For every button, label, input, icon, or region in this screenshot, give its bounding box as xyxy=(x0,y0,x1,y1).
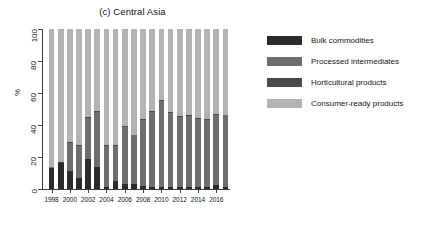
legend-label: Horticultural products xyxy=(311,78,387,87)
bar-segment xyxy=(159,29,165,100)
bar-segment xyxy=(113,146,119,181)
bar-2015 xyxy=(204,29,210,189)
x-tick-label: 2016 xyxy=(209,196,223,203)
bar-segment xyxy=(76,178,82,189)
bar-1998 xyxy=(49,29,55,189)
bar-segment xyxy=(149,112,155,186)
bar-2007 xyxy=(131,29,137,189)
legend-swatch xyxy=(267,57,302,66)
bar-segment xyxy=(49,168,55,189)
bar-2002 xyxy=(85,29,91,189)
x-tick-label: 1998 xyxy=(44,196,58,203)
bar-segment xyxy=(204,187,210,189)
bar-2003 xyxy=(94,29,100,189)
bar-segment xyxy=(76,29,82,145)
bar-2004 xyxy=(104,29,110,189)
legend-item: Processed intermediates xyxy=(267,51,403,72)
bar-2011 xyxy=(168,29,174,189)
bar-segment xyxy=(168,29,174,112)
legend-swatch xyxy=(267,36,302,45)
bar-2012 xyxy=(177,29,183,189)
chart-figure: (c) Central Asia % 020406080100 19982000… xyxy=(0,0,429,227)
x-tick-mark xyxy=(88,190,89,193)
bar-2009 xyxy=(149,29,155,189)
bar-segment xyxy=(177,29,183,116)
plot-area: 020406080100 199820002002200420062008201… xyxy=(47,29,230,189)
bar-segment xyxy=(223,29,229,115)
bar-segment xyxy=(94,29,100,111)
x-tick-label: 2002 xyxy=(81,196,95,203)
bar-segment xyxy=(85,159,91,189)
bar-2016 xyxy=(213,29,219,189)
bar-segment xyxy=(67,29,73,142)
bar-segment xyxy=(122,29,128,126)
x-tick-mark xyxy=(70,190,71,193)
bar-segment xyxy=(195,29,201,118)
legend-item: Horticultural products xyxy=(267,72,403,93)
y-tick-mark xyxy=(38,61,42,62)
x-tick-mark xyxy=(198,190,199,193)
bar-2014 xyxy=(195,29,201,189)
x-tick-mark xyxy=(143,190,144,193)
y-axis-title: % xyxy=(13,89,22,96)
legend-item: Bulk commodities xyxy=(267,30,403,51)
bar-segment xyxy=(122,184,128,189)
bar-segment xyxy=(149,187,155,189)
bar-segment xyxy=(94,112,100,166)
x-tick-label: 2014 xyxy=(191,196,205,203)
bar-segment xyxy=(213,29,219,114)
bar-segment xyxy=(131,135,137,184)
bar-segment xyxy=(186,187,192,189)
bar-segment xyxy=(140,29,146,119)
x-tick-mark xyxy=(106,190,107,193)
x-tick-label: 2000 xyxy=(63,196,77,203)
bar-segment xyxy=(186,29,192,115)
bar-segment xyxy=(104,29,110,145)
bar-2005 xyxy=(113,29,119,189)
chart-title: (c) Central Asia xyxy=(40,6,225,17)
bar-segment xyxy=(159,101,165,187)
bar-segment xyxy=(113,29,119,145)
x-tick-label: 2010 xyxy=(154,196,168,203)
x-tick-mark xyxy=(216,190,217,193)
bar-segment xyxy=(85,29,91,117)
bar-segment xyxy=(58,163,64,189)
bar-segment xyxy=(94,167,100,189)
bar-2001 xyxy=(76,29,82,189)
bar-segment xyxy=(168,187,174,189)
y-tick-mark xyxy=(38,93,42,94)
x-tick-mark xyxy=(180,190,181,193)
bar-segment xyxy=(213,115,219,185)
x-tick-mark xyxy=(161,190,162,193)
bar-segment xyxy=(223,115,229,186)
bar-2008 xyxy=(140,29,146,189)
bar-segment xyxy=(49,29,55,167)
y-tick-mark xyxy=(38,125,42,126)
bar-segment xyxy=(113,181,119,189)
bar-2013 xyxy=(186,29,192,189)
bar-segment xyxy=(186,116,192,186)
bar-segment xyxy=(140,120,146,186)
x-tick-label: 2008 xyxy=(136,196,150,203)
bar-segment xyxy=(104,146,110,187)
bar-segment xyxy=(131,184,137,189)
y-axis-line xyxy=(42,29,43,189)
bar-segment xyxy=(177,187,183,189)
bar-segment xyxy=(140,186,146,189)
bar-segment xyxy=(204,120,210,186)
bar-segment xyxy=(85,118,91,159)
bar-2000 xyxy=(67,29,73,189)
bar-segment xyxy=(67,171,73,189)
legend-swatch xyxy=(267,99,302,108)
bar-2017 xyxy=(223,29,229,189)
bar-segment xyxy=(131,29,137,135)
chart-legend: Bulk commoditiesProcessed intermediatesH… xyxy=(267,30,403,114)
legend-item: Consumer-ready products xyxy=(267,93,403,114)
bar-segment xyxy=(168,113,174,187)
x-tick-label: 2006 xyxy=(118,196,132,203)
legend-label: Bulk commodities xyxy=(311,36,374,45)
bar-segment xyxy=(195,187,201,189)
bar-2010 xyxy=(159,29,165,189)
x-tick-mark xyxy=(125,190,126,193)
legend-swatch xyxy=(267,78,302,87)
